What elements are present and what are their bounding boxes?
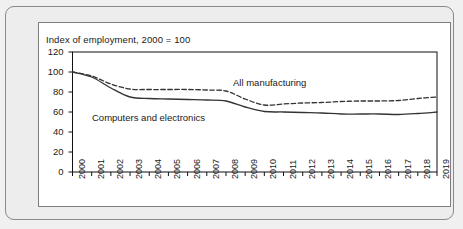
x-axis-tick-label: 2017 <box>403 159 413 179</box>
x-axis-tick-label: 2012 <box>307 159 317 179</box>
x-axis-tick-label: 2001 <box>96 159 106 179</box>
x-axis-tick-label: 2011 <box>288 160 298 179</box>
y-axis-tick-label: 100 <box>38 66 64 77</box>
series-label-computers-and-electronics: Computers and electronics <box>92 112 205 123</box>
x-axis-tick-label: 2005 <box>172 159 182 179</box>
x-axis-tick-label: 2014 <box>345 159 355 179</box>
y-axis-tick-label: 120 <box>38 46 64 57</box>
y-axis-tick-label: 20 <box>38 146 64 157</box>
x-axis-tick-label: 2016 <box>383 159 393 179</box>
x-axis-tick-label: 2002 <box>115 159 125 179</box>
y-axis-tick-label: 80 <box>38 86 64 97</box>
x-axis-tick-label: 2008 <box>230 159 240 179</box>
x-axis-tick-label: 2003 <box>134 159 144 179</box>
figure-container: Index of employment, 2000 = 100 02040608… <box>0 0 463 229</box>
x-axis-tick-label: 2013 <box>326 159 336 179</box>
x-axis-tick-label: 2004 <box>153 159 163 179</box>
x-axis-tick-label: 2007 <box>211 159 221 179</box>
y-axis-tick-label: 60 <box>38 106 64 117</box>
x-axis-tick-label: 2006 <box>192 159 202 179</box>
x-axis-tick-label: 2010 <box>268 159 278 179</box>
x-axis-tick-label: 2018 <box>422 159 432 179</box>
y-axis-tick-label: 0 <box>38 166 64 177</box>
y-axis-tick-label: 40 <box>38 126 64 137</box>
x-axis-tick-label: 2015 <box>364 159 374 179</box>
x-axis-tick-label: 2000 <box>77 159 87 179</box>
chart-title: Index of employment, 2000 = 100 <box>46 34 190 45</box>
x-axis-tick-label: 2019 <box>441 159 451 179</box>
x-axis-tick-label: 2009 <box>249 159 259 179</box>
series-label-all-manufacturing: All manufacturing <box>233 77 306 88</box>
